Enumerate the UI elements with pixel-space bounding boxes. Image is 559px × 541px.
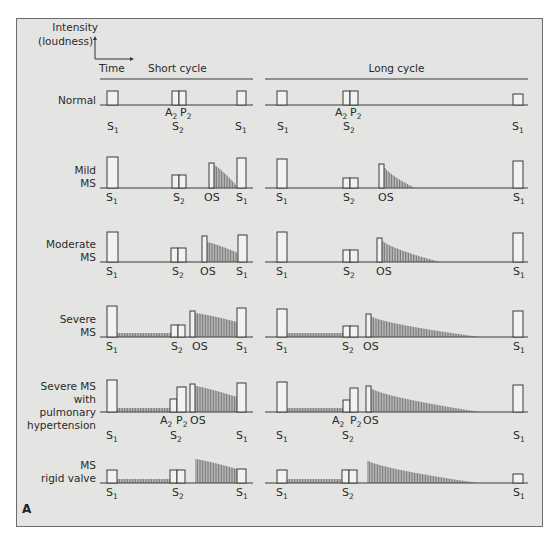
heart-sound-box [107, 157, 118, 188]
sound-label: S1 [236, 486, 248, 501]
row-label: hypertension [27, 419, 96, 431]
heart-sound-box [513, 474, 523, 483]
sound-label: S1 [235, 120, 247, 135]
row-label: MS [80, 251, 96, 263]
heart-sound-box [277, 232, 287, 262]
sound-label: S1 [106, 429, 118, 444]
row-mild-ms: MildMSS1S2OSS1S1S2OSS1 [74, 157, 528, 206]
heart-sound-box [177, 470, 185, 483]
row-label: pulmonary [39, 406, 96, 418]
heart-sound-box [107, 232, 118, 262]
murmur [118, 408, 169, 412]
heart-sound-box [366, 314, 371, 337]
sound-label: P2 [350, 106, 362, 121]
sound-label: S1 [276, 486, 288, 501]
heart-sound-box [107, 380, 117, 412]
heart-sound-box [513, 94, 523, 105]
heart-sound-box [350, 250, 358, 262]
heart-sound-box [277, 91, 287, 105]
heart-sound-box [172, 175, 179, 188]
heart-sound-box [178, 248, 186, 262]
sound-label: OS [363, 340, 379, 353]
heart-sound-box [107, 306, 117, 337]
murmur [372, 317, 478, 337]
sound-label: S1 [513, 486, 525, 501]
murmur [288, 333, 342, 337]
heart-sound-box [277, 159, 287, 188]
x-arrow-head-icon [130, 57, 134, 61]
sound-label: S2 [342, 486, 354, 501]
row-severe-ms-with-pulmonary-hypertension: Severe MSwithpulmonaryhypertensionA2P2OS… [27, 380, 528, 444]
murmur [196, 313, 236, 337]
sound-label: S1 [106, 486, 118, 501]
murmur [288, 479, 341, 483]
sound-label: P2 [350, 414, 362, 429]
row-label: Normal [58, 94, 96, 106]
panel-letter: A [22, 502, 32, 516]
sound-label: A2 [332, 414, 345, 429]
row-label: Severe MS [41, 380, 97, 392]
sound-label: OS [204, 191, 220, 204]
murmur [118, 479, 169, 483]
sound-label: S1 [106, 340, 118, 355]
heart-sound-box [350, 91, 358, 105]
heart-sound-box [209, 163, 214, 188]
heart-sound-box [170, 399, 177, 412]
row-label: with [74, 393, 96, 405]
heart-sound-box [513, 385, 523, 412]
sound-label: S1 [513, 265, 525, 280]
row-label: MS [80, 459, 96, 471]
heart-sound-box [177, 387, 186, 412]
heart-sound-box [349, 470, 357, 483]
row-label: Severe [60, 313, 96, 325]
sound-label: S1 [277, 120, 289, 135]
sound-label: S2 [171, 340, 183, 355]
heart-sound-box [171, 325, 178, 337]
heart-sound-box [237, 158, 246, 188]
sound-label: OS [363, 414, 379, 427]
murmur [383, 241, 437, 262]
sound-label: S1 [513, 191, 525, 206]
row-label: rigid valve [41, 472, 96, 484]
y-arrow-head-icon [93, 36, 97, 40]
heart-sound-box [170, 470, 177, 483]
heart-sound-box [237, 308, 246, 337]
sound-label: S1 [513, 340, 525, 355]
sound-label: P2 [176, 414, 188, 429]
y-axis-label-line2: (loudness) [38, 35, 93, 47]
heart-sound-box [237, 469, 246, 483]
sound-label: S1 [236, 265, 248, 280]
heart-sound-box [237, 383, 246, 412]
sound-label: S1 [513, 429, 525, 444]
sound-label: S1 [107, 120, 119, 135]
row-label: MS [80, 326, 96, 338]
heart-sound-box [513, 233, 523, 262]
heart-sound-box [366, 386, 371, 412]
sound-label: A2 [160, 414, 173, 429]
sound-label: OS [200, 265, 216, 278]
row-ms-rigid-valve: MSrigid valveS1S2S1S1S2S1 [41, 459, 528, 501]
x-axis-label: Time [98, 62, 125, 74]
heart-sound-box [343, 250, 350, 262]
heart-sound-box [343, 178, 350, 188]
sound-label: S1 [276, 429, 288, 444]
sound-label: S1 [512, 120, 524, 135]
row-label: Moderate [46, 238, 96, 250]
heart-sound-box [513, 161, 523, 188]
sound-label: S1 [236, 191, 248, 206]
heart-sound-box [513, 311, 523, 337]
murmur [118, 333, 171, 337]
sound-label: OS [378, 191, 394, 204]
heart-sound-box [238, 235, 247, 262]
sound-label: OS [192, 340, 208, 353]
sound-label: S2 [172, 120, 184, 135]
heart-sound-box [277, 382, 287, 412]
heart-sound-box [171, 248, 178, 262]
sound-label: S1 [276, 191, 288, 206]
sound-label: S2 [343, 265, 355, 280]
heart-sound-box [202, 236, 207, 262]
row-normal: NormalS1A2P2S2S1S1A2P2S2S1 [58, 91, 528, 135]
sound-label: S1 [276, 265, 288, 280]
heart-sound-box [379, 164, 384, 188]
axis-legend: Intensity (loudness) Time [38, 21, 134, 74]
